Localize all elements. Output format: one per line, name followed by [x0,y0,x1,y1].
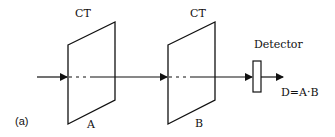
plate-a-top-label: CT [75,7,91,20]
detector-label: Detector [254,38,303,51]
ct-detector-diagram: CT A CT B Detector D=A·B (a) [0,0,335,137]
detector-box [253,61,261,92]
ct-plate-a [68,22,115,124]
plate-a-bottom-label: A [86,118,96,131]
plate-b-bottom-label: B [195,117,203,130]
output-formula: D=A·B [281,86,319,99]
panel-label: (a) [15,115,28,127]
plate-b-top-label: CT [190,7,206,20]
ct-plate-b [168,22,215,124]
